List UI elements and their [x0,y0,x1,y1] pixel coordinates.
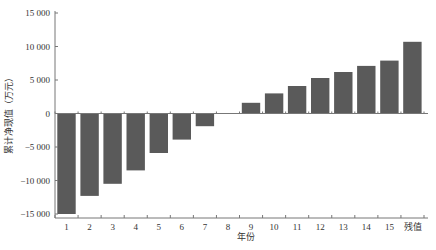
bar-15 [380,61,398,114]
x-tick-label: 11 [293,222,302,232]
y-tick-label: 5 000 [30,75,51,85]
bar-10 [265,93,283,113]
x-tick-label: 4 [133,222,138,232]
y-axis-title: 累计净现值（万元） [3,73,14,154]
x-tick-label: 2 [87,222,92,232]
bar-3 [103,114,121,184]
bar-12 [311,78,329,114]
x-tick-label: 10 [270,222,280,232]
bar-5 [150,114,168,154]
x-tick-label: 6 [180,222,185,232]
bars [57,42,421,214]
y-tick-label: 15 000 [25,8,50,18]
bar-14 [357,66,375,114]
bar-13 [334,72,352,114]
bar-chart: 15 00010 0005 0000−5 000−10 000−15 000 1… [0,0,436,250]
bar-残值 [403,42,421,114]
y-tick-label: 0 [46,109,51,119]
bar-6 [173,114,191,140]
x-tick-label: 12 [316,222,325,232]
x-tick-label: 15 [385,222,395,232]
x-tick-label: 5 [157,222,162,232]
bar-9 [242,103,260,114]
y-tick-label: −15 000 [20,209,50,219]
bar-1 [57,114,75,215]
bar-11 [288,86,306,114]
x-tick-label: 9 [249,222,254,232]
x-tick-label: 3 [110,222,115,232]
bar-2 [80,114,98,196]
y-tick-label: 10 000 [25,42,50,52]
x-tick-label: 1 [64,222,69,232]
x-axis-title: 年份 [237,231,255,242]
y-axis: 15 00010 0005 0000−5 000−10 000−15 000 [20,8,58,219]
bar-4 [127,114,145,171]
x-tick-label: 14 [362,222,372,232]
x-axis: 123456789101112131415残值 [55,215,428,232]
x-tick-label: 残值 [404,221,422,232]
x-tick-label: 8 [226,222,231,232]
y-tick-label: −10 000 [20,176,50,186]
y-tick-label: −5 000 [25,142,51,152]
bar-7 [196,114,214,127]
x-tick-label: 13 [339,222,349,232]
x-tick-label: 7 [203,222,208,232]
